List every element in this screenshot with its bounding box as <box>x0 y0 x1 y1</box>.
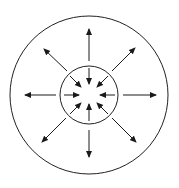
concentric-flow-diagram <box>0 0 179 188</box>
outward-arrow-icon-to-top-right <box>112 48 135 71</box>
outward-arrow-icon-to-top-left <box>44 49 67 71</box>
diagram-canvas <box>0 0 179 188</box>
inward-arrow-icon-from-bottom-right <box>97 103 108 114</box>
inward-arrow-icon-from-top-right <box>97 76 108 87</box>
outward-arrows <box>25 29 156 157</box>
inward-arrow-icon-from-bottom-left <box>70 103 81 114</box>
outward-arrow-icon-to-bottom-left <box>42 118 66 142</box>
outward-arrow-icon-to-bottom-right <box>112 118 136 142</box>
inward-arrows <box>64 68 115 121</box>
inward-arrow-icon-from-top-left <box>70 76 81 87</box>
